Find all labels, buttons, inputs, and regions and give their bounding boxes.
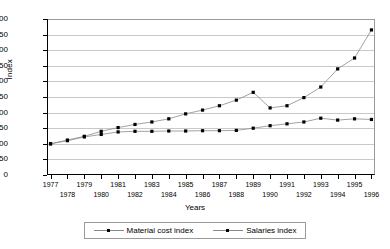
y-axis-tick-label: 450 xyxy=(0,31,8,39)
data-point-marker xyxy=(133,123,136,126)
x-axis-tick-label: 1977 xyxy=(38,181,64,189)
data-point-marker xyxy=(100,133,103,136)
data-point-marker xyxy=(235,99,238,102)
legend-label: Salaries index xyxy=(246,226,296,235)
x-axis-tick-mark xyxy=(371,175,372,179)
data-point-marker xyxy=(353,117,356,120)
y-axis-tick-label: 300 xyxy=(0,77,8,85)
data-point-marker xyxy=(336,67,339,70)
series-line xyxy=(51,118,372,144)
data-point-marker xyxy=(336,118,339,121)
x-axis-tick-mark xyxy=(51,175,52,179)
data-point-marker xyxy=(150,130,153,133)
y-axis-tick-label: 150 xyxy=(0,124,8,132)
data-point-marker xyxy=(285,104,288,107)
y-axis-tick-label: 350 xyxy=(0,62,8,70)
y-axis-tick-label: 500 xyxy=(0,15,8,23)
x-axis-tick-label: 1981 xyxy=(105,181,131,189)
x-axis-title: Years xyxy=(0,203,390,212)
legend-label: Material cost index xyxy=(127,226,194,235)
data-point-marker xyxy=(150,120,153,123)
x-axis-tick-label: 1988 xyxy=(223,191,249,199)
data-point-marker xyxy=(252,91,255,94)
y-axis-tick-label: 100 xyxy=(0,140,8,148)
data-point-marker xyxy=(100,130,103,133)
legend-line-marker-icon xyxy=(213,227,243,234)
data-point-marker xyxy=(370,28,373,31)
data-point-marker xyxy=(66,139,69,142)
data-point-marker xyxy=(353,56,356,59)
legend-line-marker-icon xyxy=(94,227,124,234)
x-axis-tick-mark xyxy=(67,175,68,179)
data-point-marker xyxy=(201,129,204,132)
x-axis-tick-label: 1980 xyxy=(88,191,114,199)
x-axis-tick-label: 1984 xyxy=(156,191,182,199)
x-axis-tick-mark xyxy=(338,175,339,179)
data-point-marker xyxy=(117,130,120,133)
x-axis-tick-mark xyxy=(287,175,288,179)
x-axis-tick-mark xyxy=(253,175,254,179)
data-point-marker xyxy=(218,104,221,107)
x-axis-tick-mark xyxy=(203,175,204,179)
x-axis-tick-label: 1995 xyxy=(342,181,368,189)
series-layer xyxy=(47,19,375,175)
data-point-marker xyxy=(370,118,373,121)
y-axis-tick-label: 250 xyxy=(0,93,8,101)
x-axis-tick-mark xyxy=(152,175,153,179)
data-point-marker xyxy=(252,127,255,130)
x-axis-tick-label: 1996 xyxy=(358,191,384,199)
x-axis-tick-mark xyxy=(186,175,187,179)
x-axis-tick-mark xyxy=(219,175,220,179)
x-axis-tick-mark xyxy=(118,175,119,179)
x-axis-tick-label: 1982 xyxy=(122,191,148,199)
data-point-marker xyxy=(218,129,221,132)
data-point-marker xyxy=(184,129,187,132)
legend-entry: Salaries index xyxy=(213,226,296,235)
x-axis-tick-mark xyxy=(321,175,322,179)
data-point-marker xyxy=(167,117,170,120)
x-axis-tick-mark xyxy=(101,175,102,179)
data-point-marker xyxy=(302,96,305,99)
data-point-marker xyxy=(184,112,187,115)
x-axis-tick-label: 1992 xyxy=(291,191,317,199)
x-axis-tick-label: 1993 xyxy=(308,181,334,189)
chart-legend: Material cost indexSalaries index xyxy=(84,222,306,239)
series-salaries-index xyxy=(49,117,373,146)
series-material-cost-index xyxy=(49,28,373,145)
data-point-marker xyxy=(49,142,52,145)
x-axis-tick-label: 1991 xyxy=(274,181,300,189)
data-point-marker xyxy=(167,129,170,132)
x-axis-tick-mark xyxy=(84,175,85,179)
y-axis-tick-mark xyxy=(43,175,47,176)
data-point-marker xyxy=(133,130,136,133)
x-axis-tick-label: 1978 xyxy=(54,191,80,199)
y-axis-tick-label: 200 xyxy=(0,109,8,117)
x-axis-tick-label: 1985 xyxy=(173,181,199,189)
data-point-marker xyxy=(117,126,120,129)
data-point-marker xyxy=(235,129,238,132)
x-axis-tick-mark xyxy=(270,175,271,179)
data-point-marker xyxy=(201,109,204,112)
y-axis-tick-label: 0 xyxy=(0,171,8,179)
x-axis-tick-label: 1990 xyxy=(257,191,283,199)
line-chart: Index 050100150200250300350400450500 197… xyxy=(0,0,390,249)
x-axis-tick-mark xyxy=(236,175,237,179)
data-point-marker xyxy=(285,122,288,125)
x-axis-tick-label: 1986 xyxy=(190,191,216,199)
data-point-marker xyxy=(319,85,322,88)
x-axis-tick-label: 1987 xyxy=(206,181,232,189)
data-point-marker xyxy=(269,106,272,109)
x-axis-tick-mark xyxy=(169,175,170,179)
data-point-marker xyxy=(269,124,272,127)
x-axis-tick-mark xyxy=(355,175,356,179)
y-axis-tick-label: 400 xyxy=(0,46,8,54)
data-point-marker xyxy=(302,120,305,123)
x-axis-tick-label: 1979 xyxy=(71,181,97,189)
legend-entry: Material cost index xyxy=(94,226,194,235)
y-axis-tick-label: 50 xyxy=(0,155,8,163)
data-point-marker xyxy=(319,117,322,120)
x-axis-tick-label: 1989 xyxy=(240,181,266,189)
x-axis-tick-label: 1983 xyxy=(139,181,165,189)
x-axis-tick-mark xyxy=(135,175,136,179)
x-axis-tick-mark xyxy=(304,175,305,179)
